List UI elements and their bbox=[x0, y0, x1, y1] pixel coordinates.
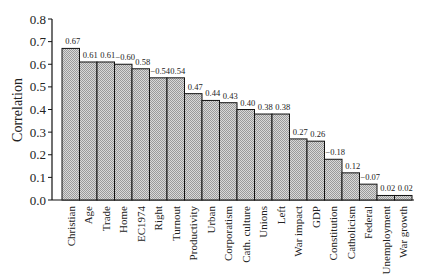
bar-age bbox=[80, 62, 98, 200]
x-category-label: Unemployment bbox=[380, 206, 392, 274]
bar-value-label: −0.60 bbox=[115, 52, 135, 62]
bar-urban bbox=[202, 100, 220, 200]
bar-unions bbox=[255, 114, 273, 200]
bar-value-label: 0.43 bbox=[223, 91, 238, 101]
bar-home bbox=[115, 64, 133, 200]
bar-value-label: 0.54 bbox=[170, 66, 186, 76]
x-category-label: Cath. culture bbox=[240, 206, 252, 263]
x-category-label: EC1974 bbox=[135, 206, 147, 243]
bar-value-label: 0.47 bbox=[188, 82, 203, 92]
bar-value-label: 0.26 bbox=[310, 129, 325, 139]
bar-value-label: 0.27 bbox=[293, 127, 308, 137]
bar-catholicism bbox=[342, 173, 360, 200]
bar-war-impact bbox=[290, 139, 308, 200]
x-category-label: Right bbox=[152, 206, 164, 230]
bar-value-label: 0.67 bbox=[65, 36, 80, 46]
bar-unemployment bbox=[377, 195, 395, 200]
x-category-label: Corporatism bbox=[222, 206, 234, 261]
x-category-label: Federal bbox=[362, 206, 374, 239]
bar-left bbox=[272, 114, 290, 200]
bar-value-label: 0.38 bbox=[258, 102, 273, 112]
x-axis-category-labels: ChristianAgeTradeHomeEC1974RightTurnoutP… bbox=[65, 206, 410, 275]
bar-ec1974 bbox=[132, 69, 150, 200]
bar-value-label: −0.07 bbox=[360, 172, 380, 182]
x-category-label: Trade bbox=[100, 206, 112, 231]
bar-christian bbox=[62, 48, 80, 200]
x-category-label: Christian bbox=[65, 206, 77, 247]
bar-constitution bbox=[325, 159, 343, 200]
bar-value-label: 0.02 bbox=[398, 183, 413, 193]
bar-cath-culture bbox=[237, 110, 255, 201]
x-category-label: Left bbox=[275, 206, 287, 224]
x-category-label: War growth bbox=[397, 206, 409, 258]
bar-federal bbox=[360, 184, 378, 200]
x-category-label: Turnout bbox=[170, 206, 182, 241]
bar-corporatism bbox=[220, 103, 238, 200]
bar-gdp bbox=[307, 141, 325, 200]
bar-value-label: 0.58 bbox=[135, 57, 150, 67]
x-category-label: Constitution bbox=[327, 206, 339, 261]
bar-value-label: 0.02 bbox=[380, 183, 395, 193]
x-category-label: Urban bbox=[205, 206, 217, 234]
x-category-label: Catholicism bbox=[345, 206, 357, 260]
bar-value-label: 0.40 bbox=[240, 98, 255, 108]
bar-value-label: 0.61 bbox=[100, 50, 115, 60]
y-tick-label: 0.2 bbox=[30, 147, 46, 162]
bar-value-label: 0.38 bbox=[275, 102, 290, 112]
bar-value-label: −0.18 bbox=[325, 147, 345, 157]
y-tick-label: 0.8 bbox=[30, 12, 46, 27]
bar-turnout bbox=[167, 78, 185, 200]
bar-value-label: 0.44 bbox=[205, 88, 221, 98]
y-tick-label: 0.3 bbox=[30, 125, 46, 140]
x-category-label: Home bbox=[117, 206, 129, 233]
y-tick-label: 0.6 bbox=[30, 57, 47, 72]
x-category-label: GDP bbox=[310, 206, 322, 228]
x-category-label: War impact bbox=[292, 206, 304, 257]
y-axis-title: Correlation bbox=[10, 78, 25, 142]
bar-right bbox=[150, 78, 168, 200]
y-tick-label: 0.0 bbox=[30, 193, 46, 208]
x-category-label: Age bbox=[82, 206, 94, 224]
bar-value-label: 0.61 bbox=[83, 50, 98, 60]
bar-trade bbox=[97, 62, 115, 200]
correlation-bar-chart: 0.00.10.20.30.40.50.60.70.8 Correlation … bbox=[0, 0, 428, 280]
y-tick-label: 0.7 bbox=[30, 34, 47, 49]
bar-value-label: −0.54 bbox=[150, 66, 170, 76]
bar-productivity bbox=[185, 94, 203, 200]
x-category-label: Unions bbox=[257, 206, 269, 238]
y-tick-label: 0.4 bbox=[30, 102, 47, 117]
x-category-label: Productivity bbox=[187, 206, 199, 261]
bar-value-label: 0.12 bbox=[345, 161, 360, 171]
bar-war-growth bbox=[395, 195, 413, 200]
y-tick-label: 0.5 bbox=[30, 79, 46, 94]
y-tick-label: 0.1 bbox=[30, 170, 46, 185]
